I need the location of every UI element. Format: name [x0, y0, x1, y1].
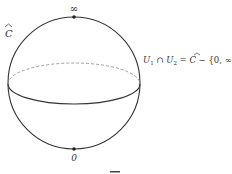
- annotation-text: U1 ∩ U2 = C − {0, ∞}: [143, 55, 232, 66]
- equals-sign: =: [177, 55, 190, 65]
- cap-symbol: ∩: [154, 55, 167, 65]
- minus-set: − {0, ∞}: [196, 55, 232, 65]
- south-pole-point: [72, 147, 76, 151]
- bottom-mark: [110, 171, 120, 173]
- sphere-label-text: C: [5, 28, 13, 39]
- sphere-label: C: [5, 24, 13, 39]
- south-pole-label: 0: [71, 153, 77, 163]
- riemann-sphere-diagram: ∞ 0 C U1 ∩ U2 = C − {0, ∞}: [0, 0, 232, 174]
- hat-icon: [5, 24, 12, 27]
- north-pole-point: [72, 15, 76, 19]
- north-pole-label: ∞: [70, 3, 78, 14]
- intersection-annotation: U1 ∩ U2 = C − {0, ∞}: [143, 53, 232, 66]
- equator-back-dashed: [8, 63, 140, 84]
- equator-front: [8, 84, 140, 104]
- sphere-outline: [8, 17, 140, 149]
